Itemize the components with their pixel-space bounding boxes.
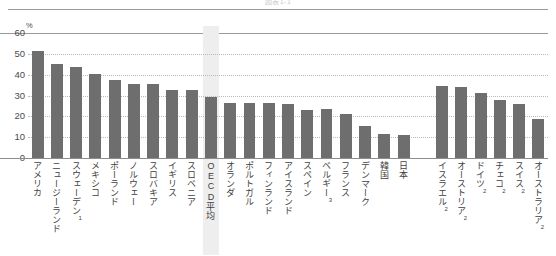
x-tick-label: OECD平均: [206, 161, 216, 256]
x-tick-label: オランダ: [225, 161, 235, 256]
bar: [186, 90, 198, 158]
x-axis-baseline: [0, 158, 548, 159]
bar: [494, 100, 506, 158]
bar: [224, 103, 236, 158]
bar: [398, 135, 410, 158]
x-tick-label: メキシコ: [90, 161, 100, 256]
x-tick-label: ベルギー3: [322, 161, 336, 256]
bar: [378, 134, 390, 158]
bar: [89, 74, 101, 158]
y-axis-labels: 0102030405060: [0, 33, 25, 159]
x-tick-label: イスラエル2: [437, 161, 451, 256]
chart-title: 図表1-1: [0, 0, 556, 6]
x-tick-label: デンマーク: [360, 161, 370, 256]
bar: [340, 114, 352, 158]
x-tick-label: ポルトガル: [244, 161, 254, 256]
bar: [321, 109, 333, 158]
footnote-marker: 2: [482, 188, 488, 194]
x-tick-label: 日本: [399, 161, 409, 256]
footnote-marker: 2: [443, 206, 449, 212]
bar: [244, 103, 256, 158]
x-tick-label: フランス: [341, 161, 351, 256]
x-tick-label: アメリカ: [33, 161, 43, 256]
bar: [51, 64, 63, 158]
bar: [436, 86, 448, 158]
x-tick-label: 韓国: [379, 161, 389, 256]
y-tick-label-30: 30: [3, 91, 25, 101]
x-tick-label: オーストラリア2: [533, 161, 547, 256]
footnote-marker: 2: [501, 188, 507, 194]
x-tick-label: ニュージーランド: [52, 161, 62, 256]
x-tick-label: スウェーデン1: [71, 161, 85, 256]
bar: [205, 97, 217, 158]
bar: [301, 110, 313, 158]
y-tick-label-40: 40: [3, 70, 25, 80]
y-tick-label-20: 20: [3, 111, 25, 121]
footnote-marker: 2: [462, 215, 468, 221]
footnote-marker: 1: [77, 215, 83, 221]
footnote-marker: 3: [328, 197, 334, 203]
chart-figure: 図表1-1 % 0102030405060 アメリカニュージーランドスウェーデン…: [0, 0, 556, 256]
x-tick-label: スイス2: [514, 161, 528, 256]
bar: [263, 103, 275, 158]
bar: [455, 87, 467, 158]
bar-series: [28, 33, 548, 158]
x-tick-label: アイスランド: [283, 161, 293, 256]
top-divider: [8, 9, 548, 10]
bar: [128, 84, 140, 158]
y-tick-label-50: 50: [3, 49, 25, 59]
bar: [147, 84, 159, 158]
title-strip: 図表1-1: [0, 0, 556, 9]
y-tick-label-60: 60: [3, 28, 25, 38]
x-tick-label: フィンランド: [264, 161, 274, 256]
bar: [109, 80, 121, 158]
bar: [282, 104, 294, 158]
footnote-marker: 2: [520, 188, 526, 194]
x-tick-label: ポーランド: [110, 161, 120, 256]
bar: [166, 90, 178, 158]
bar: [513, 104, 525, 158]
x-tick-label: ドイツ2: [476, 161, 490, 256]
bar: [32, 51, 44, 158]
bar: [359, 126, 371, 158]
y-axis-unit: %: [26, 21, 33, 30]
footnote-marker: 2: [539, 224, 545, 230]
bar: [532, 119, 544, 158]
x-tick-label: スロベニア: [187, 161, 197, 256]
bar: [70, 67, 82, 158]
bar: [475, 93, 487, 158]
x-tick-label: ノルウェー: [129, 161, 139, 256]
x-tick-label: チェコ2: [495, 161, 509, 256]
x-tick-label: スロバキア: [148, 161, 158, 256]
x-tick-label: イギリス: [167, 161, 177, 256]
y-tick-label-10: 10: [3, 132, 25, 142]
x-tick-label: オーストリア2: [456, 161, 470, 256]
x-tick-label: スペイン: [302, 161, 312, 256]
x-axis-category-labels: アメリカニュージーランドスウェーデン1メキシコポーランドノルウェースロバキアイギ…: [28, 161, 548, 256]
